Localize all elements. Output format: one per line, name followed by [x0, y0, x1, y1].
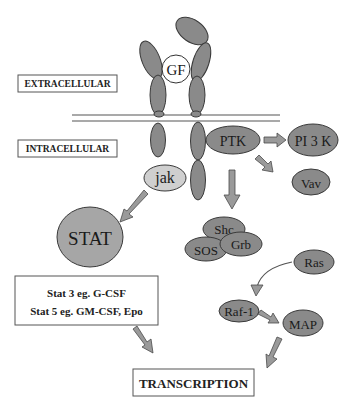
- transcription-text: TRANSCRIPTION: [139, 376, 249, 391]
- arrow-map-to-transcription: [266, 337, 282, 368]
- gf-label: GF: [166, 62, 185, 78]
- grb-node: Grb: [220, 232, 262, 256]
- stat-examples-line1: Stat 3 eg. G-CSF: [47, 287, 126, 299]
- raf1-label: Raf-1: [224, 304, 254, 319]
- vav-node: Vav: [292, 169, 330, 195]
- jak-label: jak: [154, 169, 175, 187]
- raf1-node: Raf-1: [219, 300, 259, 322]
- extracellular-text: EXTRACELLULAR: [24, 79, 110, 89]
- ras-label: Ras: [304, 255, 324, 270]
- jak-node: jak: [144, 165, 186, 191]
- arrow-raf1-to-map: [258, 310, 279, 323]
- intracellular-text: INTRACELLULAR: [26, 144, 110, 154]
- grb-label: Grb: [231, 237, 251, 252]
- arrow-jak-to-stat: [120, 190, 148, 222]
- shc-sos-grb-complex: Shc SOS Grb: [185, 217, 262, 261]
- extracellular-label: EXTRACELLULAR: [18, 75, 117, 92]
- stat-node: STAT: [57, 207, 123, 267]
- stat-examples-box: Stat 3 eg. G-CSF Stat 5 eg. GM-CSF, Epo: [15, 276, 158, 325]
- arrow-ptk-to-shc: [224, 170, 240, 209]
- arrow-stat-to-transcription: [133, 326, 153, 353]
- pi3k-label: PI 3 K: [295, 134, 332, 149]
- vav-label: Vav: [301, 176, 322, 191]
- ptk-label: PTK: [220, 134, 246, 149]
- map-node: MAP: [283, 310, 323, 336]
- ptk-node: PTK: [206, 126, 260, 154]
- ras-node: Ras: [294, 250, 334, 274]
- stat-label: STAT: [68, 228, 112, 249]
- stat-examples-line2: Stat 5 eg. GM-CSF, Epo: [30, 305, 143, 317]
- gf-node: GF: [162, 55, 190, 83]
- sos-label: SOS: [194, 243, 218, 258]
- arrow-ptk-to-pi3k: [264, 133, 286, 147]
- intracellular-label: INTRACELLULAR: [18, 140, 117, 157]
- pi3k-node: PI 3 K: [288, 124, 338, 156]
- signal-transduction-diagram: EXTRACELLULAR INTRACELLULAR GF PTK: [0, 0, 353, 411]
- transcription-box: TRANSCRIPTION: [133, 369, 254, 396]
- cell-membrane: [72, 115, 280, 121]
- receptor-left: [135, 38, 167, 157]
- arrow-ptk-to-vav: [255, 155, 273, 172]
- arrow-ras-to-raf1: [251, 262, 292, 296]
- map-label: MAP: [289, 317, 317, 332]
